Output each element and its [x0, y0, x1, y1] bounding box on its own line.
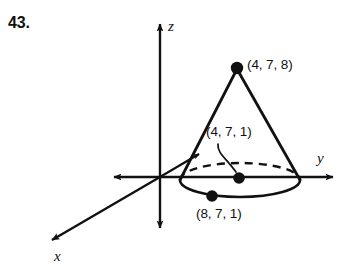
x-axis [52, 154, 199, 240]
leader-line-center-point [218, 144, 236, 172]
cone-diagram-svg [0, 0, 342, 272]
point-label-apex: (4, 7, 8) [247, 57, 293, 72]
point-label-base-center: (4, 7, 1) [206, 124, 252, 139]
point-base-center-dot [233, 172, 245, 184]
point-apex-dot [231, 62, 243, 74]
x-axis-label: x [54, 248, 61, 265]
point-label-base-rim: (8, 7, 1) [196, 206, 242, 221]
point-base-rim-dot [206, 190, 218, 202]
figure-page: 43. [0, 0, 342, 272]
y-axis-label: y [317, 150, 324, 167]
x-axis-positive-front [52, 177, 160, 240]
z-axis-label: z [168, 18, 174, 35]
